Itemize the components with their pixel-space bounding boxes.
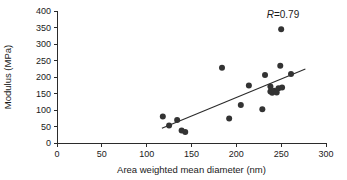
correlation-symbol: R	[267, 9, 274, 20]
data-point	[160, 114, 166, 120]
y-axis-tick-label: 300	[36, 39, 51, 49]
data-points-group	[160, 26, 294, 135]
x-axis-tick-label: 100	[139, 149, 154, 159]
x-axis-tick-label: 200	[229, 149, 244, 159]
x-axis-tick-label: 0	[54, 149, 59, 159]
axes: 0501001502002503003504000501001502002503…	[36, 6, 334, 159]
data-point	[279, 85, 285, 91]
y-axis-title: Modulus (MPa)	[2, 45, 13, 109]
x-axis-title: Area weighted mean diameter (nm)	[117, 164, 266, 175]
data-point	[174, 117, 180, 123]
data-point	[182, 129, 188, 135]
data-point	[277, 63, 283, 69]
data-point	[278, 26, 284, 32]
data-point	[219, 65, 225, 71]
y-axis-tick-label: 150	[36, 89, 51, 99]
data-point	[246, 83, 252, 89]
x-axis-tick-label: 150	[184, 149, 199, 159]
data-point	[238, 102, 244, 108]
data-point	[262, 72, 268, 78]
y-axis-tick-label: 200	[36, 72, 51, 82]
y-axis-tick-label: 50	[41, 122, 51, 132]
plot-svg: 0501001502002503003504000501001502002503…	[0, 0, 347, 180]
y-axis-tick-label: 400	[36, 6, 51, 16]
annotations-group: R=0.79	[267, 9, 300, 20]
data-point	[226, 116, 232, 122]
data-point	[259, 106, 265, 112]
y-axis-tick-label: 250	[36, 56, 51, 66]
x-axis-tick-label: 250	[274, 149, 289, 159]
trend-line	[162, 69, 305, 128]
correlation-annotation: R=0.79	[267, 9, 300, 20]
trend-line-group	[162, 69, 305, 128]
scatter-plot-figure: 0501001502002503003504000501001502002503…	[0, 0, 347, 180]
x-axis-tick-label: 50	[97, 149, 107, 159]
data-point	[288, 71, 294, 77]
y-axis-tick-label: 350	[36, 23, 51, 33]
y-axis-tick-label: 0	[46, 138, 51, 148]
y-axis-tick-label: 100	[36, 105, 51, 115]
correlation-value: =0.79	[274, 9, 300, 20]
data-point	[166, 123, 172, 129]
x-axis-tick-label: 300	[318, 149, 333, 159]
